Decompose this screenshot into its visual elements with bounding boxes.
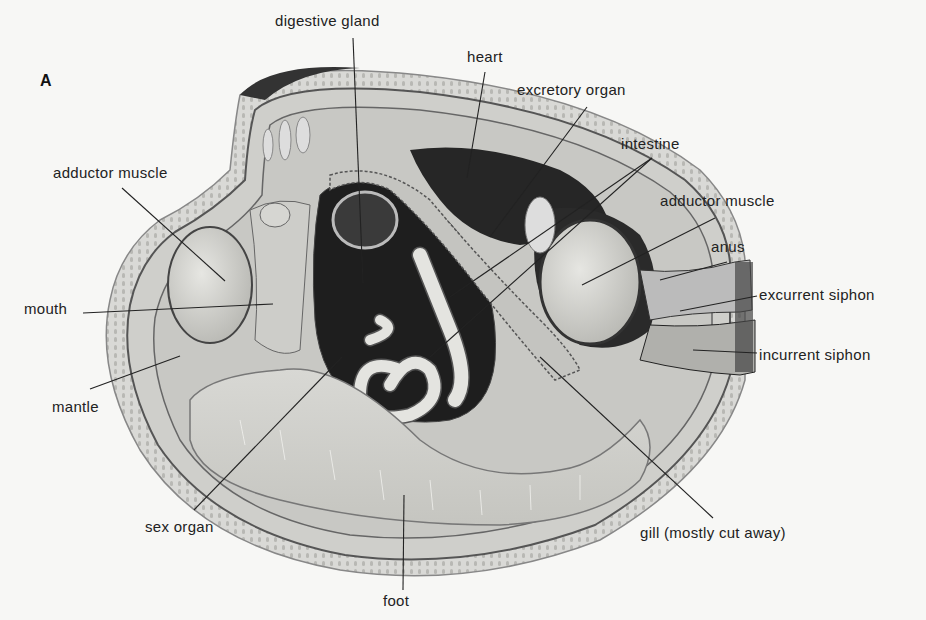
clam-anatomy-illustration	[0, 0, 926, 620]
label-gill: gill (mostly cut away)	[640, 524, 786, 541]
panel-letter: A	[40, 72, 52, 90]
label-foot: foot	[383, 592, 409, 609]
label-mantle: mantle	[52, 398, 99, 415]
label-anus: anus	[711, 238, 745, 255]
label-incurrent-siphon: incurrent siphon	[759, 346, 871, 363]
adductor-muscle-anterior	[168, 227, 252, 343]
label-digestive-gland: digestive gland	[275, 12, 380, 29]
label-excretory-organ: excretory organ	[517, 81, 626, 98]
adductor-muscle-posterior	[540, 220, 640, 344]
label-heart: heart	[467, 48, 503, 65]
label-intestine: intestine	[621, 135, 680, 152]
label-adductor-muscle-left: adductor muscle	[53, 164, 168, 181]
label-adductor-muscle-right: adductor muscle	[660, 192, 775, 209]
label-mouth: mouth	[24, 300, 67, 317]
label-sex-organ: sex organ	[145, 518, 214, 535]
label-excurrent-siphon: excurrent siphon	[759, 286, 875, 303]
